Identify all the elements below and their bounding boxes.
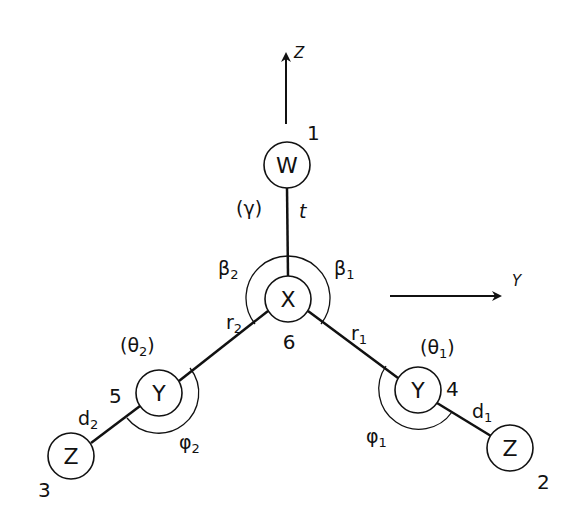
atom-W-index: 1 [307, 121, 320, 145]
label-gamma: (γ) [236, 197, 262, 219]
z-axis-label: Z [293, 44, 305, 62]
y-axis-label: Y [512, 272, 523, 290]
label-d2: d2 [78, 407, 98, 432]
atom-W-symbol: W [276, 153, 298, 178]
atom-X: X 6 [265, 276, 311, 354]
atom-Y1: Y 4 [395, 367, 459, 413]
molecule-diagram: Z Y W 1 X 6 Y 4 Y 5 [0, 0, 580, 531]
label-beta2: β2 [218, 257, 238, 282]
label-r1: r1 [351, 322, 367, 347]
label-theta1: (θ1) [420, 336, 455, 361]
y-axis-arrow: Y [390, 272, 523, 296]
atom-Z3-index: 3 [38, 478, 51, 502]
atom-Z3-symbol: Z [63, 444, 78, 469]
label-d1: d1 [472, 400, 492, 425]
label-theta2: (θ2) [120, 334, 155, 359]
atom-W: W 1 [264, 121, 320, 188]
label-phi2: φ2 [179, 431, 200, 456]
z-axis-arrow: Z [286, 44, 305, 124]
atom-Z2: Z 2 [487, 425, 550, 494]
atom-Z2-symbol: Z [502, 436, 517, 461]
label-r2: r2 [226, 311, 242, 336]
atom-X-symbol: X [280, 287, 295, 312]
atom-X-index: 6 [283, 330, 296, 354]
label-t: t [299, 200, 308, 222]
label-beta1: β1 [334, 257, 354, 282]
atom-Y2-symbol: Y [151, 381, 166, 406]
atom-Y2-index: 5 [109, 384, 122, 408]
label-phi1: φ1 [366, 425, 387, 450]
atom-Y1-symbol: Y [410, 378, 425, 403]
bond-t [287, 188, 288, 276]
atom-Y2: Y 5 [109, 370, 182, 416]
atom-Z2-index: 2 [537, 470, 550, 494]
atom-Y1-index: 4 [446, 377, 459, 401]
atom-Z3: Z 3 [38, 433, 94, 502]
